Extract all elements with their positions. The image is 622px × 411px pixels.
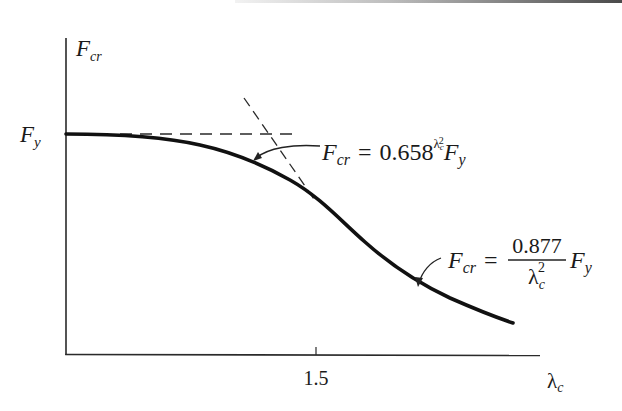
arrowhead-icon [253,152,262,161]
formula-elastic-denominator: λc2 [528,260,546,292]
x-tick-label: 1.5 [304,367,329,389]
column-curve-chart: Fcr Fy 1.5 λc Fcr=0.658λc2Fy Fcr= 0.877 … [0,0,622,411]
x-axis [65,355,540,356]
formula-elastic-fy: Fy [569,247,593,277]
formula-elastic-lhs: Fcr= [447,247,498,276]
formula1-leader-arrow [256,146,320,159]
x-axis-label: λc [547,369,564,395]
fy-label: Fy [19,122,41,150]
formula-elastic-numerator: 0.877 [512,233,562,258]
y-axis-label: Fcr [75,36,102,64]
formula-inelastic: Fcr=0.658λc2Fy [321,135,467,169]
